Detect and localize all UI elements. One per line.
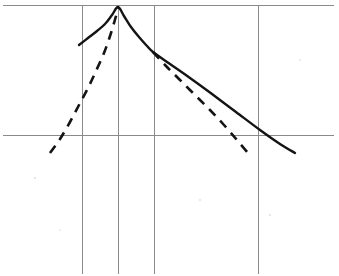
sketch-svg xyxy=(0,0,339,276)
figure-canvas xyxy=(0,0,339,276)
figure-background xyxy=(0,0,339,276)
